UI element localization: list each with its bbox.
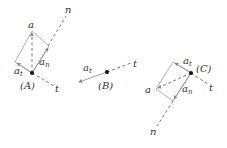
tangent-label-a: t <box>55 83 60 94</box>
tangent-axis-c <box>191 73 208 84</box>
point-label-c: (C) <box>196 63 212 74</box>
tangential-label-b: at <box>83 62 92 75</box>
normal-comp-label-c: an <box>182 83 193 96</box>
tangential-label-c: at <box>183 55 192 68</box>
point-b-dot <box>105 70 109 74</box>
tangential-label-a: at <box>14 65 23 78</box>
point-a-dot <box>30 71 34 75</box>
accel-label-a: a <box>28 19 34 30</box>
acceleration-components-diagram: n a at an (A) t at (B) t at (C) t a an n <box>0 0 227 148</box>
normal-axis-c <box>157 101 173 126</box>
panel-b: at (B) t <box>79 58 138 91</box>
normal-comp-label-a: an <box>39 56 50 69</box>
tangent-label-b: t <box>133 58 138 69</box>
diagram-svg: n a at an (A) t at (B) t at (C) t a an n <box>0 0 227 148</box>
normal-label-c: n <box>150 126 156 137</box>
panel-c: at (C) t a an n <box>145 55 214 137</box>
accel-label-c: a <box>145 84 151 95</box>
panel-a: n a at an (A) t <box>14 4 71 94</box>
point-label-a: (A) <box>20 80 35 91</box>
normal-axis-a <box>48 16 66 46</box>
point-c-dot <box>189 71 193 75</box>
tangent-label-c: t <box>209 82 214 93</box>
normal-label-a: n <box>65 4 71 15</box>
tangent-axis-a <box>32 73 54 86</box>
point-label-b: (B) <box>98 80 113 91</box>
tangent-axis-b <box>107 63 131 72</box>
